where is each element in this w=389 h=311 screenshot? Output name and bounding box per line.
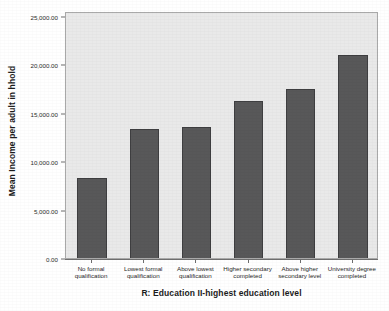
y-axis-ticks: 0.005,000.0010,000.0015,000.0020,000.002… bbox=[22, 0, 66, 311]
bars-layer bbox=[66, 13, 377, 258]
x-tick-label: No formal qualification bbox=[62, 265, 120, 280]
x-tick-mark bbox=[143, 259, 144, 263]
x-tick-mark bbox=[91, 259, 92, 263]
x-tick-label: Above lowest qualification bbox=[166, 265, 224, 280]
y-axis-title: Mean Income per adult in hhold bbox=[0, 0, 24, 262]
x-tick-mark bbox=[195, 259, 196, 263]
bar-chart-figure: Mean Income per adult in hhold 0.005,000… bbox=[0, 0, 389, 311]
x-tick-mark bbox=[248, 259, 249, 263]
bar[interactable] bbox=[130, 129, 159, 258]
y-tick-label: 20,000.00 bbox=[30, 62, 58, 69]
x-tick-label: University degree completed bbox=[323, 265, 381, 280]
bar[interactable] bbox=[182, 127, 211, 258]
bar[interactable] bbox=[338, 55, 367, 258]
plot-area bbox=[65, 12, 378, 259]
y-axis-title-label: Mean Income per adult in hhold bbox=[7, 66, 17, 197]
x-tick-mark bbox=[300, 259, 301, 263]
bar[interactable] bbox=[77, 178, 106, 258]
y-tick-label: 0.00 bbox=[46, 256, 58, 263]
bar[interactable] bbox=[286, 89, 315, 258]
x-tick-label: Higher secondary completed bbox=[219, 265, 277, 280]
bar[interactable] bbox=[234, 101, 263, 258]
y-tick-label: 25,000.00 bbox=[30, 14, 58, 21]
x-tick-label: Above higher secondary level bbox=[271, 265, 329, 280]
y-tick-label: 15,000.00 bbox=[30, 110, 58, 117]
x-tick-label: Lowest formal qualification bbox=[114, 265, 172, 280]
x-axis-title: R: Education II-highest education level bbox=[65, 288, 378, 298]
y-tick-label: 5,000.00 bbox=[34, 207, 58, 214]
y-tick-label: 10,000.00 bbox=[30, 159, 58, 166]
x-tick-mark bbox=[352, 259, 353, 263]
